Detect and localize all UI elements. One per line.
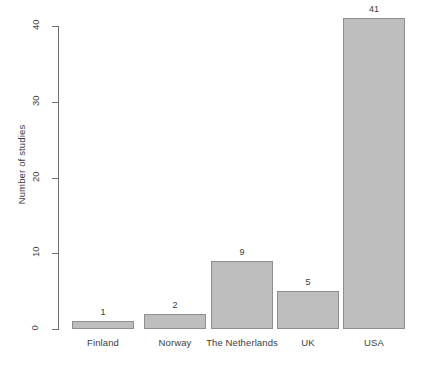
bar-value-label: 2 [144,301,206,310]
bar-value-label: 9 [211,248,273,257]
bar-finland[interactable] [72,321,134,329]
bar-chart: Number of studies 010203040 1Finland2Nor… [0,0,423,373]
bar-value-label: 5 [277,278,339,287]
bar-usa[interactable] [343,18,405,329]
bar-norway[interactable] [144,314,206,329]
plot-area: 1Finland2Norway9The Netherlands5UK41USA [0,0,423,373]
bar-the-netherlands[interactable] [211,261,273,329]
bar-value-label: 1 [72,308,134,317]
bar-uk[interactable] [277,291,339,329]
bar-value-label: 41 [343,5,405,14]
x-axis-category-label: USA [319,338,423,348]
